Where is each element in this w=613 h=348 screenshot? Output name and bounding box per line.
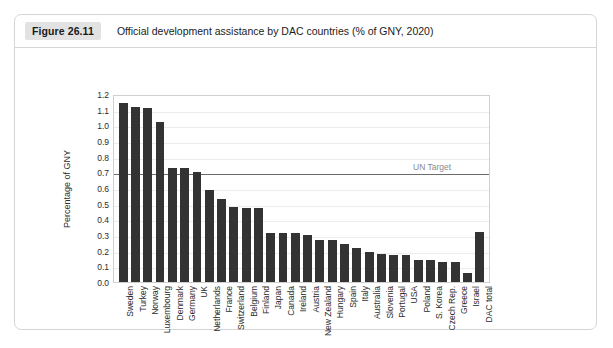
figure-card: Figure 26.11 Official development assist…: [14, 14, 597, 330]
figure-header: Figure 26.11 Official development assist…: [15, 15, 596, 48]
bar[interactable]: [438, 262, 447, 282]
x-label-slot: Slovenia: [376, 284, 388, 348]
bar[interactable]: [463, 273, 472, 282]
bar-slot: [400, 96, 412, 282]
bar-slot: [265, 96, 277, 282]
bar[interactable]: [168, 168, 177, 282]
y-tick-label: 0.4: [97, 215, 109, 225]
bar-slot: [252, 96, 264, 282]
bar-slot: [240, 96, 252, 282]
x-label-slot: Turkey: [128, 284, 140, 348]
x-label-slot: Ireland: [289, 284, 301, 348]
bar-slot: [301, 96, 313, 282]
bar[interactable]: [377, 254, 386, 282]
bar[interactable]: [352, 248, 361, 282]
bar[interactable]: [291, 233, 300, 282]
x-label-slot: Poland: [413, 284, 425, 348]
x-label-slot: Italy: [351, 284, 363, 348]
bar-slot: [117, 96, 129, 282]
y-tick-label: 1.1: [97, 106, 109, 116]
bar-slot: [314, 96, 326, 282]
y-tick-label: 0.5: [97, 200, 109, 210]
bar-slot: [461, 96, 473, 282]
bar[interactable]: [402, 255, 411, 282]
plot-area: [113, 95, 490, 283]
bar[interactable]: [315, 240, 324, 282]
bar-slot: [474, 96, 486, 282]
bar[interactable]: [266, 233, 275, 282]
bar-slot: [326, 96, 338, 282]
bar-slot: [375, 96, 387, 282]
bar-slot: [228, 96, 240, 282]
bar[interactable]: [131, 107, 140, 282]
x-tick-label: DAC total: [484, 286, 494, 322]
x-label-slot: New Zealand: [314, 284, 326, 348]
x-label-slot: Belgium: [240, 284, 252, 348]
x-label-slot: Germany: [178, 284, 190, 348]
bar-slot: [215, 96, 227, 282]
x-label-slot: DAC total: [474, 284, 486, 348]
x-label-slot: Luxembourg: [153, 284, 165, 348]
bar-slot: [191, 96, 203, 282]
y-tick-label: 0.3: [97, 231, 109, 241]
x-label-slot: Norway: [141, 284, 153, 348]
bar[interactable]: [279, 233, 288, 282]
bar[interactable]: [451, 262, 460, 282]
x-label-slot: Portugal: [388, 284, 400, 348]
bar[interactable]: [156, 122, 165, 282]
x-label-slot: S. Korea: [425, 284, 437, 348]
y-axis-title: Percentage of GNY: [62, 150, 72, 228]
bar[interactable]: [475, 232, 484, 282]
bar[interactable]: [193, 172, 202, 282]
bars-layer: [114, 96, 489, 282]
bar[interactable]: [426, 260, 435, 282]
x-axis-labels: SwedenTurkeyNorwayLuxembourgDenmarkGerma…: [113, 284, 490, 348]
bar[interactable]: [303, 235, 312, 282]
bar[interactable]: [389, 255, 398, 282]
bar-slot: [203, 96, 215, 282]
x-label-slot: Finland: [252, 284, 264, 348]
bar-slot: [166, 96, 178, 282]
bar[interactable]: [254, 208, 263, 282]
bar[interactable]: [217, 199, 226, 282]
x-label-slot: Czech Rep.: [437, 284, 449, 348]
bar[interactable]: [229, 207, 238, 282]
figure-title: Official development assistance by DAC c…: [117, 25, 434, 37]
bar[interactable]: [365, 252, 374, 282]
y-tick-label: 0.0: [97, 278, 109, 288]
bar-slot: [351, 96, 363, 282]
bar-slot: [363, 96, 375, 282]
x-label-slot: Greece: [450, 284, 462, 348]
bar-slot: [142, 96, 154, 282]
bar[interactable]: [242, 208, 251, 282]
y-tick-label: 0.6: [97, 184, 109, 194]
x-label-slot: USA: [400, 284, 412, 348]
bar-slot: [412, 96, 424, 282]
bar[interactable]: [340, 244, 349, 282]
bar-slot: [449, 96, 461, 282]
bar[interactable]: [180, 168, 189, 282]
bar[interactable]: [143, 108, 152, 282]
y-tick-label: 0.8: [97, 153, 109, 163]
bar-slot: [277, 96, 289, 282]
y-tick-label: 0.7: [97, 168, 109, 178]
x-label-slot: Sweden: [116, 284, 128, 348]
bar[interactable]: [119, 103, 128, 282]
x-label-slot: Denmark: [165, 284, 177, 348]
x-label-slot: Canada: [277, 284, 289, 348]
bar-slot: [154, 96, 166, 282]
bar[interactable]: [414, 260, 423, 282]
y-tick-label: 1.2: [97, 90, 109, 100]
bar-slot: [424, 96, 436, 282]
bar[interactable]: [328, 240, 337, 282]
bar-slot: [338, 96, 350, 282]
un-target-label: UN Target: [413, 162, 451, 172]
chart-body: 1.21.11.00.90.80.70.60.50.40.30.20.10.0 …: [15, 48, 596, 329]
x-label-slot: Spain: [338, 284, 350, 348]
figure-number-badge: Figure 26.11: [25, 22, 101, 40]
bar-slot: [289, 96, 301, 282]
bar[interactable]: [205, 190, 214, 282]
bar-slot: [178, 96, 190, 282]
x-label-slot: France: [215, 284, 227, 348]
y-tick-label: 1.0: [97, 121, 109, 131]
